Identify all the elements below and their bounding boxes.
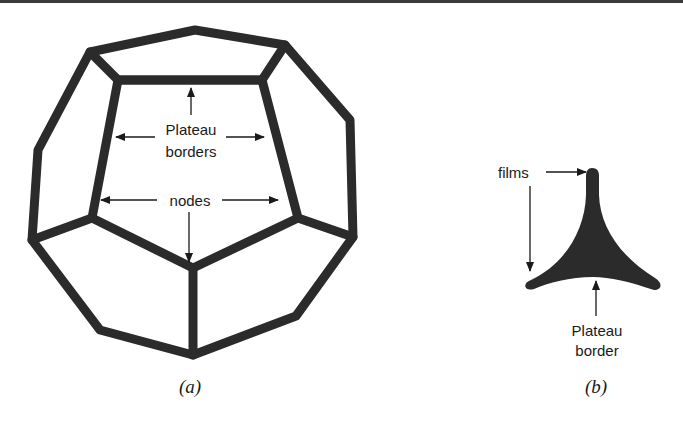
- panel-b-annotations: films Plateau border (b): [498, 164, 622, 398]
- plateau-border-shape: [525, 168, 660, 290]
- caption-b: (b): [585, 376, 607, 398]
- films-label: films: [498, 164, 529, 181]
- plateau-border-label-line1: Plateau: [572, 322, 623, 339]
- plateau-borders-label-line2: borders: [166, 143, 217, 160]
- plateau-borders-label-line1: Plateau: [166, 121, 217, 138]
- right-spoke: [298, 218, 353, 237]
- foam-diagram: Plateau borders nodes (a) films Plateau …: [0, 0, 683, 431]
- plateau-border-label-line2: border: [575, 342, 618, 359]
- front-pentagon: [92, 80, 298, 268]
- left-spoke: [32, 218, 92, 240]
- caption-a: (a): [179, 376, 201, 398]
- nodes-label: nodes: [170, 192, 211, 209]
- plateau-border-cross-section: [525, 168, 660, 290]
